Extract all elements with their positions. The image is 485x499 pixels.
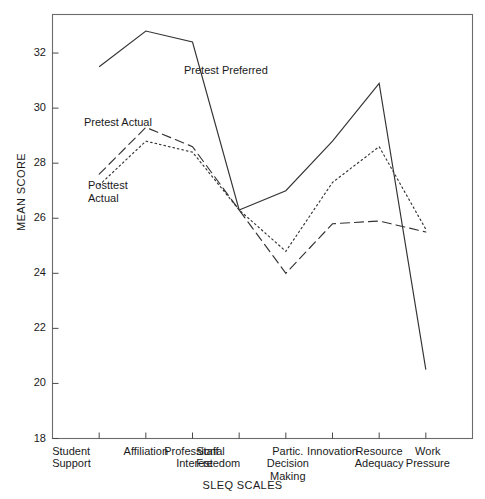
series-annotation-pretest-actual: Pretest Actual bbox=[84, 116, 152, 129]
y-tick-label: 20 bbox=[22, 376, 46, 388]
data-series-group bbox=[99, 31, 426, 370]
y-tick-label: 22 bbox=[22, 321, 46, 333]
x-tick-label: Work Pressure bbox=[397, 445, 459, 470]
series-line-pretest-preferred bbox=[99, 31, 426, 370]
chart-figure: MEAN SCORE SLEQ SCALES 1820222426283032 … bbox=[0, 0, 485, 499]
series-annotation-posttest-actual: Posttest Actual bbox=[88, 179, 128, 204]
y-tick-label: 18 bbox=[22, 432, 46, 444]
y-axis-ticks bbox=[53, 53, 59, 438]
y-tick-label: 26 bbox=[22, 211, 46, 223]
y-tick-label: 30 bbox=[22, 101, 46, 113]
series-line-posttest-actual bbox=[99, 141, 426, 251]
x-axis-title: SLEQ SCALES bbox=[0, 479, 485, 491]
plot-frame bbox=[53, 15, 473, 439]
y-tick-label: 32 bbox=[22, 46, 46, 58]
y-axis-title: MEAN SCORE bbox=[15, 127, 27, 257]
y-tick-label: 28 bbox=[22, 156, 46, 168]
y-tick-label: 24 bbox=[22, 266, 46, 278]
x-axis-ticks bbox=[99, 433, 426, 439]
x-tick-label: Staff Freedom bbox=[196, 445, 258, 470]
series-annotation-pretest-preferred: Pretest Preferred bbox=[184, 64, 268, 77]
